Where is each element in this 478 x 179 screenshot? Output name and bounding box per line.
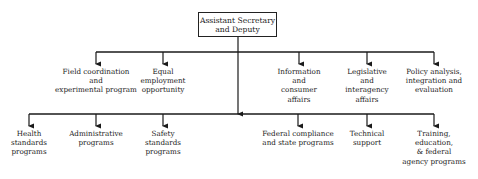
node-eeo: Equalemploymentopportunity [141,67,186,95]
node-admin: Administrativeprograms [69,129,123,147]
node-label-line: programs [69,138,123,147]
node-label-line: and [345,76,388,85]
root-node-assistant-secretary: Assistant Secretary and Deputy [198,12,277,37]
node-label-line: standards [11,138,47,147]
node-training: Training,education,& federalagency progr… [402,129,465,166]
node-label-line: Health [11,129,47,138]
node-label-line: Equal [141,67,186,76]
node-label-line: and [55,76,137,85]
node-legis: Legislativeandinteragencyaffairs [345,67,388,104]
node-label-line: education, [402,138,465,147]
node-label-line: consumer [277,85,320,94]
node-safety: Safetystandardsprograms [145,129,181,157]
node-label-line: Federal compliance [262,129,334,138]
node-health: Healthstandardsprograms [11,129,47,157]
node-label-line: Administrative [69,129,123,138]
node-label-line: & federal [402,147,465,156]
node-label-line: Safety [145,129,181,138]
node-label-line: agency programs [402,157,465,166]
root-line-1: Assistant Secretary [200,16,275,25]
node-label-line: and [277,76,320,85]
node-policy: Policy analysis,integration andevaluatio… [406,67,462,95]
node-info: Informationandconsumeraffairs [277,67,320,104]
node-label-line: affairs [345,95,388,104]
node-label-line: opportunity [141,85,186,94]
node-label-line: integration and [406,76,462,85]
node-label-line: Technical [350,129,385,138]
node-label-line: affairs [277,95,320,104]
node-label-line: standards [145,138,181,147]
node-label-line: and state programs [262,138,334,147]
node-federal: Federal complianceand state programs [262,129,334,147]
node-label-line: employment [141,76,186,85]
node-label-line: Policy analysis, [406,67,462,76]
node-label-line: programs [11,147,47,156]
node-label-line: programs [145,147,181,156]
node-label-line: Legislative [345,67,388,76]
node-label-line: Field coordination [55,67,137,76]
node-label-line: support [350,138,385,147]
node-label-line: experimental program [55,85,137,94]
root-line-2: and Deputy [200,25,275,34]
node-label-line: Training, [402,129,465,138]
node-label-line: Information [277,67,320,76]
node-label-line: evaluation [406,85,462,94]
node-tech: Technicalsupport [350,129,385,147]
node-label-line: interagency [345,85,388,94]
node-field: Field coordinationandexperimental progra… [55,67,137,95]
